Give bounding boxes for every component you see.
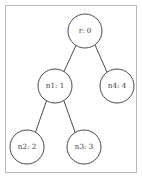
- tree-node-label-n1: n1: 1: [46, 81, 64, 90]
- tree-node-n4[interactable]: n4: 4: [100, 69, 134, 103]
- tree-node-n1[interactable]: n1: 1: [38, 69, 72, 103]
- tree-node-label-r: r: 0: [79, 26, 92, 35]
- tree-node-label-n4: n4: 4: [108, 81, 127, 90]
- tree-node-label-n3: n3: 3: [75, 142, 94, 151]
- tree-node-r[interactable]: r: 0: [68, 14, 102, 48]
- tree-diagram-container: r: 0n1: 1n4: 4n2: 2n3: 3: [0, 0, 142, 179]
- tree-node-n2[interactable]: n2: 2: [10, 130, 44, 164]
- tree-node-label-n2: n2: 2: [18, 142, 36, 151]
- tree-node-n3[interactable]: n3: 3: [67, 130, 101, 164]
- tree-diagram-canvas: r: 0n1: 1n4: 4n2: 2n3: 3: [0, 0, 142, 179]
